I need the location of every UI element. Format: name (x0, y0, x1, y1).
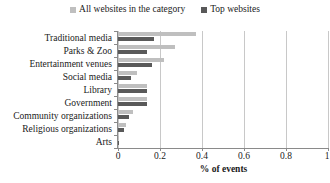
bar-top-websites[interactable] (118, 141, 119, 145)
y-axis-tick (114, 44, 118, 45)
bar-top-websites[interactable] (118, 115, 129, 119)
y-axis-label-social-media: Social media (63, 72, 112, 82)
x-axis-label-0-8: 0.8 (280, 150, 292, 162)
y-axis-label-arts: Arts (96, 137, 112, 147)
bar-top-websites[interactable] (118, 63, 152, 67)
y-axis-label-community-organizations: Community organizations (13, 111, 112, 121)
y-axis-tick (114, 109, 118, 110)
y-axis-tick (114, 57, 118, 58)
x-axis-label-1: 1 (325, 150, 330, 162)
y-axis-label-entertainment-venues: Entertainment venues (29, 59, 112, 69)
x-axis-title: % of events (118, 164, 329, 175)
bar-all-websites[interactable] (118, 58, 164, 62)
legend-item-label: All websites in the category (79, 5, 185, 15)
y-axis-tick (114, 122, 118, 123)
x-axis-label-0-4: 0.4 (196, 150, 208, 162)
y-axis-tick (114, 83, 118, 84)
bar-all-websites[interactable] (118, 97, 147, 101)
y-axis-tick (114, 31, 118, 32)
y-axis-label-parks-and-zoo: Parks & Zoo (63, 46, 112, 56)
legend-item-label: Top websites (210, 5, 260, 15)
legend-item-all-websites[interactable]: All websites in the category (70, 5, 185, 15)
y-axis-label-government: Government (65, 98, 113, 108)
bar-chart: All websites in the category Top website… (0, 0, 330, 183)
y-axis-label-traditional-media: Traditional media (45, 33, 112, 43)
bar-top-websites[interactable] (118, 102, 147, 106)
y-axis-tick (114, 135, 118, 136)
plot-area (118, 31, 328, 148)
x-axis-label-0: 0 (116, 150, 121, 162)
chart-legend: All websites in the category Top website… (0, 2, 330, 17)
y-axis-label-library: Library (84, 85, 113, 95)
y-axis-tick (114, 70, 118, 71)
bar-top-websites[interactable] (118, 89, 147, 93)
y-axis-label-religious-organizations: Religious organizations (22, 124, 112, 134)
x-axis-label-0-6: 0.6 (238, 150, 250, 162)
y-axis-tick (114, 96, 118, 97)
bar-all-websites[interactable] (118, 71, 137, 75)
x-axis-line (118, 148, 329, 149)
bar-top-websites[interactable] (118, 50, 147, 54)
bar-all-websites[interactable] (118, 136, 119, 140)
square-swatch-icon (70, 7, 76, 13)
bar-all-websites[interactable] (118, 123, 126, 127)
legend-item-top-websites[interactable]: Top websites (201, 5, 260, 15)
x-axis-labels: 0 0.2 0.4 0.6 0.8 1 (0, 150, 330, 163)
bar-all-websites[interactable] (118, 45, 175, 49)
bar-top-websites[interactable] (118, 128, 124, 132)
square-swatch-icon (201, 7, 207, 13)
bar-top-websites[interactable] (118, 37, 154, 41)
y-axis-line (117, 31, 118, 149)
bar-all-websites[interactable] (118, 84, 147, 88)
bar-rows (118, 31, 328, 148)
bar-all-websites[interactable] (118, 110, 133, 114)
x-axis-label-0-2: 0.2 (154, 150, 166, 162)
bar-top-websites[interactable] (118, 76, 131, 80)
y-axis-labels: Traditional media Parks & Zoo Entertainm… (0, 31, 114, 148)
gridline-1 (328, 31, 329, 148)
bar-all-websites[interactable] (118, 32, 196, 36)
